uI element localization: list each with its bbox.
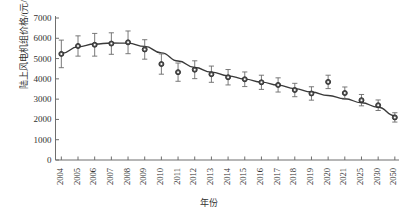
y-tick-label: 4000: [34, 74, 52, 84]
x-tick-label: 2025: [355, 168, 365, 185]
x-tick-label: 2017: [272, 168, 282, 185]
data-point: [142, 40, 147, 59]
data-point: [376, 100, 381, 111]
y-tick-label: 7000: [34, 13, 52, 23]
data-point: [92, 33, 97, 56]
chart-figure: 陆上风电机组价格/(元/kW) 年份 010002000300040005000…: [0, 0, 418, 216]
x-tick-label: 2030: [372, 168, 382, 185]
data-point: [225, 70, 230, 85]
data-point: [192, 61, 197, 79]
data-point: [75, 36, 80, 56]
y-tick-label: 5000: [34, 54, 52, 64]
y-tick-label: 2000: [34, 114, 52, 124]
data-point: [342, 87, 347, 99]
y-tick-label: 1000: [34, 135, 52, 145]
data-point: [175, 63, 180, 81]
x-tick-label: 2009: [138, 168, 148, 185]
data-point: [242, 72, 247, 87]
x-tick-label: 2012: [188, 168, 198, 185]
x-tick-label: 2005: [72, 168, 82, 185]
data-point: [125, 31, 130, 54]
x-tick-label: 2008: [122, 168, 132, 185]
data-point: [209, 66, 214, 82]
x-tick-label: 2020: [322, 168, 332, 185]
x-tick-label: 2015: [238, 168, 248, 185]
data-point: [359, 94, 364, 105]
data-point: [326, 75, 331, 88]
x-tick-label: 2010: [155, 168, 165, 185]
x-tick-label: 2050: [388, 168, 398, 185]
x-tick-label: 2018: [288, 168, 298, 185]
y-tick-label: 3000: [34, 94, 52, 104]
x-tick-label: 2011: [172, 168, 182, 185]
data-point: [392, 113, 397, 122]
y-tick-label: 6000: [34, 33, 52, 43]
data-point: [276, 78, 281, 92]
x-tick-label: 2006: [88, 168, 98, 185]
data-point: [109, 33, 114, 55]
x-tick-label: 2004: [55, 168, 65, 185]
x-tick-label: 2013: [205, 168, 215, 185]
data-point: [59, 40, 64, 68]
data-point: [309, 87, 314, 100]
x-tick-label: 2007: [105, 168, 115, 185]
x-tick-label: 2021: [338, 168, 348, 185]
data-point: [292, 83, 297, 96]
data-point: [159, 54, 164, 74]
x-tick-label: 2019: [305, 168, 315, 185]
y-tick-label: 0: [47, 155, 52, 165]
x-tick-label: 2014: [222, 168, 232, 185]
data-point: [259, 75, 264, 89]
x-tick-label: 2016: [255, 168, 265, 185]
